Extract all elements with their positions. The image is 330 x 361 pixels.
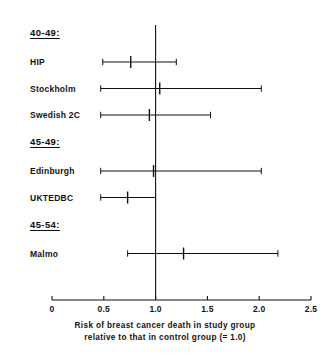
forest-plot-figure: 00.51.01.52.02.540-49:HIPStockholmSwedis…	[0, 0, 330, 361]
forest-plot-canvas	[0, 0, 330, 361]
